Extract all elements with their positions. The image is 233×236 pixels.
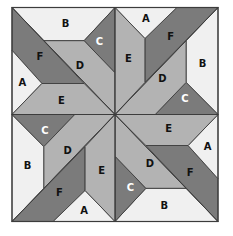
piece-label-f: F [56,187,63,198]
piece-label-c: C [181,93,188,104]
piece-label-e: E [165,123,172,134]
piece-label-b: B [199,58,207,69]
piece-label-e: E [125,53,132,64]
piece-label-d: D [63,145,71,156]
piece-label-b: B [161,200,169,211]
piece-label-b: B [24,160,32,171]
piece-label-e: E [98,165,105,176]
piece-label-d: D [76,60,84,71]
quilt-block-diagram: BCDFAEBCDFAEBCDFAEBCDFAE [0,0,233,236]
piece-label-f: F [167,31,174,42]
piece-label-f: F [36,51,43,62]
piece-label-c: C [41,125,48,136]
quilt-block: BCDFAEBCDFAEBCDFAEBCDFAE [12,8,218,222]
piece-label-a: A [80,205,88,216]
piece-label-a: A [18,77,26,88]
piece-label-e: E [58,95,65,106]
piece-label-c: C [127,182,134,193]
piece-label-a: A [142,13,150,24]
piece-label-f: F [187,167,194,178]
piece-label-b: B [62,18,70,29]
piece-label-d: D [146,158,154,169]
piece-label-c: C [96,36,103,47]
piece-label-d: D [158,73,166,84]
piece-label-a: A [204,141,212,152]
